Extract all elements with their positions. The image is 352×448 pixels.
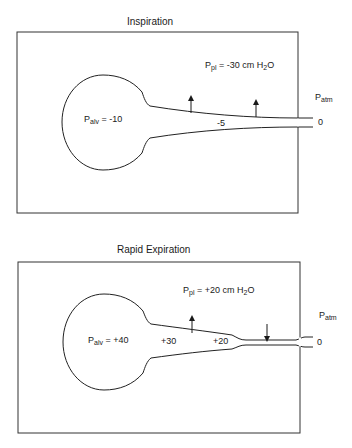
pressure-value: = +40 — [103, 335, 129, 345]
expiration-panel — [18, 262, 313, 433]
unit-tail: O — [267, 60, 274, 70]
panel-title: Inspiration — [127, 17, 173, 27]
atmospheric-pressure-label: Patm — [319, 311, 337, 321]
panel-title: Rapid Expiration — [117, 245, 190, 255]
pressure-subscript: atm — [325, 314, 337, 321]
airway-pressure-label: +20 — [213, 337, 228, 346]
pleural-pressure-label: Ppl = -30 cm H2O — [205, 61, 274, 71]
airway-pressure-label: -5 — [217, 119, 225, 128]
atmospheric-value-label: 0 — [317, 338, 322, 347]
pressure-value: = +20 cm H — [194, 285, 243, 295]
atmospheric-pressure-label: Patm — [315, 93, 333, 103]
pressure-value: = -30 cm H — [216, 60, 263, 70]
thorax-box — [18, 262, 300, 433]
atmospheric-value-label: 0 — [318, 118, 323, 127]
pleural-pressure-label: Ppl = +20 cm H2O — [183, 286, 254, 296]
pressure-subscript: alv — [90, 118, 99, 125]
pressure-subscript: alv — [94, 339, 103, 346]
unit-tail: O — [247, 285, 254, 295]
pressure-subscript: atm — [321, 96, 333, 103]
diagram-canvas — [0, 0, 352, 448]
airway-pressure-label: +30 — [161, 337, 176, 346]
alveolar-pressure-label: Palv = -10 — [84, 115, 122, 125]
alveolar-pressure-label: Palv = +40 — [88, 336, 129, 346]
pressure-value: = -10 — [99, 114, 122, 124]
